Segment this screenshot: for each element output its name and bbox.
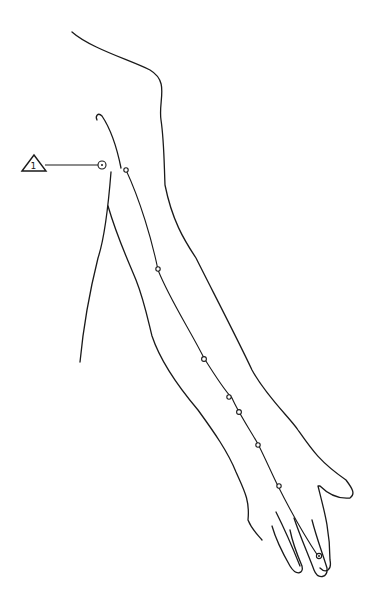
acupoint-5 bbox=[227, 395, 231, 399]
acupoint-4 bbox=[202, 357, 207, 362]
acupoint-8 bbox=[277, 484, 281, 488]
inner-arm-outline bbox=[108, 206, 262, 540]
acupoint-1-center bbox=[101, 164, 103, 166]
finger-2 bbox=[294, 518, 327, 577]
acupoint-2 bbox=[124, 168, 128, 172]
armpit-fold bbox=[96, 114, 121, 168]
acupoint-9-center bbox=[318, 555, 320, 557]
shoulder-outline bbox=[72, 32, 353, 571]
finger-1 bbox=[272, 526, 302, 573]
arm-diagram: 1 bbox=[0, 0, 382, 609]
acupoint-6 bbox=[237, 410, 242, 415]
meridian-line bbox=[126, 170, 318, 556]
marker-label: 1 bbox=[31, 161, 37, 171]
acupoint-3 bbox=[156, 267, 160, 271]
torso-outline bbox=[80, 172, 111, 362]
acupoint-7 bbox=[256, 443, 260, 447]
